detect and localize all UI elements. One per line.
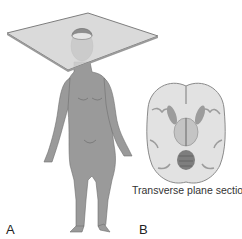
- transverse-plane: [7, 13, 158, 72]
- brain-section: [147, 83, 225, 183]
- panel-label-b: B: [139, 222, 148, 237]
- anatomy-illustration: [0, 0, 242, 239]
- head-cut-section: [72, 29, 92, 40]
- panel-label-a: A: [6, 222, 15, 237]
- figure-caption: Transverse plane section: [132, 184, 242, 196]
